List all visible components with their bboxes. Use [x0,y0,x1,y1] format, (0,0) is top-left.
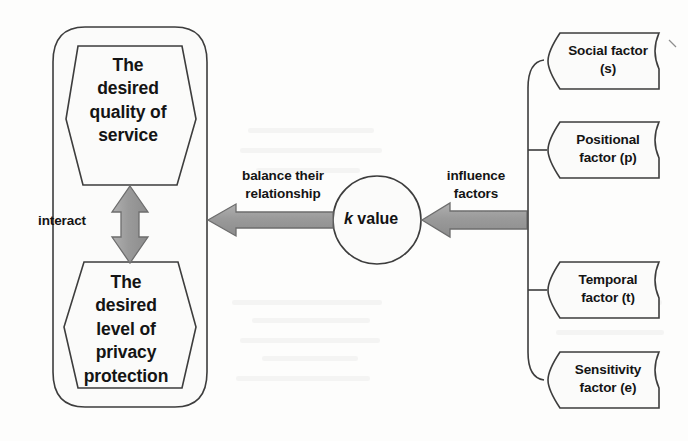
k-value-italic-k: k [344,210,353,227]
influence-factors-label: influence factors [424,167,528,202]
scan-artifact [669,40,676,47]
temporal-factor-label: Temporal factor (t) [556,271,660,306]
diagram-canvas: The desired quality of service The desir… [0,0,688,441]
sensitivity-factor-label: Sensitivity factor (e) [556,361,660,396]
k-value-rest: value [353,210,398,227]
k-value-label: k value [344,210,398,228]
positional-factor-label: Positional factor (p) [556,131,660,166]
privacy-protection-label: The desired level of privacy protection [58,271,194,388]
factors-bracket [528,60,547,380]
influence-arrow [422,203,527,237]
balance-arrow [208,204,333,236]
balance-relationship-label: balance their relationship [214,167,352,202]
interact-label: interact [38,212,116,230]
quality-of-service-label: The desired quality of service [60,54,196,148]
social-factor-label: Social factor (s) [556,42,660,77]
